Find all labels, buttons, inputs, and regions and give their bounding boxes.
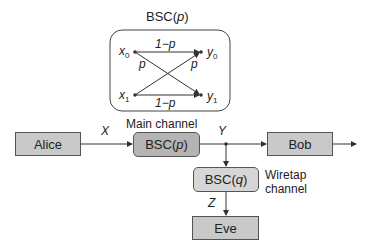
signal-x-label: X [101,124,109,138]
wiretap-channel-node: BSC(q) [193,167,259,192]
bsc-detail-title: BSC(p) [146,10,189,24]
output-y0: y0 [207,45,217,64]
alice-node: Alice [15,132,81,156]
wiretap-caption-line1: Wiretap [265,168,306,182]
input-x0: x0 [119,44,129,63]
wiretap-caption-line2: channel [265,182,307,196]
bob-node: Bob [267,132,333,156]
signal-z-label: Z [208,196,215,210]
output-y1: y1 [207,89,217,108]
straight-prob-top: 1−p [155,37,175,51]
eve-node: Eve [192,216,259,240]
straight-prob-bottom: 1−p [155,96,175,110]
main-channel-caption: Main channel [126,117,197,131]
input-x1: x1 [119,88,129,107]
main-channel-node: BSC(p) [133,132,200,157]
signal-y-label: Y [218,124,226,138]
cross-prob-right: p [191,57,198,71]
cross-prob-left: p [139,57,146,71]
